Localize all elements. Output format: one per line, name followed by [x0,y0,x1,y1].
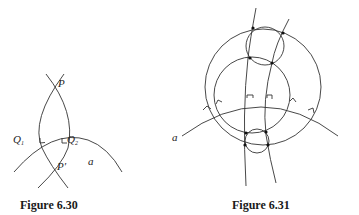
point-top-right [281,31,284,34]
point-top-left [251,26,254,29]
point-bottom-left [243,143,246,146]
caption-figure-6-31: Figure 6.31 [232,198,290,213]
point-low-right [264,130,267,133]
right-angle-mark-2 [216,100,222,104]
point-mid-right [270,61,273,64]
point-bottom-right [266,143,269,146]
figure-6-31-drawing [0,0,359,215]
point-mid-left [248,56,251,59]
right-curve [265,19,289,183]
right-angle-mark-5 [290,98,296,102]
right-angle-mark-4 [267,95,272,99]
arc-a [182,107,338,136]
right-angle-mark-6 [308,108,314,113]
point-low-left [244,131,247,134]
outer-circle [205,29,321,145]
right-angle-mark-3 [247,95,253,98]
label-a: a [172,132,178,143]
